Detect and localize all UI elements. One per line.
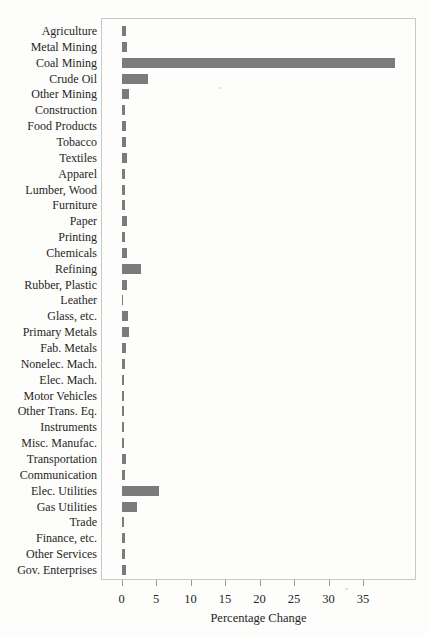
bar xyxy=(122,533,125,543)
x-tick-label: 35 xyxy=(348,592,378,607)
category-label: Other Mining xyxy=(0,88,97,100)
category-label: Instruments xyxy=(0,421,97,433)
bar xyxy=(122,359,125,369)
bar xyxy=(122,454,126,464)
category-label: Glass, etc. xyxy=(0,310,97,322)
bar xyxy=(122,295,123,305)
bar xyxy=(122,248,128,258)
bar xyxy=(122,264,141,274)
category-label: Other Services xyxy=(0,548,97,560)
category-label: Food Products xyxy=(0,120,97,132)
bar xyxy=(122,89,130,99)
x-tick-label: 30 xyxy=(314,592,344,607)
x-tick xyxy=(363,580,364,586)
bar xyxy=(122,42,128,52)
bar xyxy=(122,391,124,401)
x-tick-label: 20 xyxy=(245,592,275,607)
bar xyxy=(122,375,124,385)
bar xyxy=(122,311,129,321)
x-axis-title: Percentage Change xyxy=(101,611,416,626)
x-tick xyxy=(191,580,192,586)
bar xyxy=(122,185,126,195)
bar xyxy=(122,137,126,147)
category-label: Motor Vehicles xyxy=(0,390,97,402)
category-label: Rubber, Plastic xyxy=(0,279,97,291)
category-label: Metal Mining xyxy=(0,41,97,53)
bar xyxy=(122,502,137,512)
category-label: Communication xyxy=(0,469,97,481)
category-label: Other Trans. Eq. xyxy=(0,405,97,417)
category-label: Construction xyxy=(0,104,97,116)
category-label: Lumber, Wood xyxy=(0,184,97,196)
category-label: Transportation xyxy=(0,453,97,465)
x-tick-label: 0 xyxy=(107,592,137,607)
category-label: Paper xyxy=(0,215,97,227)
category-label: Trade xyxy=(0,516,97,528)
x-tick xyxy=(156,580,157,586)
bar xyxy=(122,74,148,84)
x-tick-label: 10 xyxy=(176,592,206,607)
category-label: Gov. Enterprises xyxy=(0,564,97,576)
category-label: Chemicals xyxy=(0,247,97,259)
category-label: Refining xyxy=(0,263,97,275)
bar xyxy=(122,549,125,559)
category-label: Printing xyxy=(0,231,97,243)
plot-area xyxy=(101,18,416,580)
category-label: Apparel xyxy=(0,168,97,180)
bar xyxy=(122,26,127,36)
x-tick xyxy=(122,580,123,586)
category-label: Gas Utilities xyxy=(0,501,97,513)
bar xyxy=(122,232,126,242)
bar-chart-figure: AgricultureMetal MiningCoal MiningCrude … xyxy=(0,0,429,637)
bar xyxy=(122,438,124,448)
bar xyxy=(122,517,125,527)
bar xyxy=(122,343,127,353)
bar xyxy=(122,470,125,480)
x-tick xyxy=(294,580,295,586)
scan-artifact xyxy=(219,87,222,89)
bar xyxy=(122,105,125,115)
x-tick xyxy=(260,580,261,586)
category-label: Agriculture xyxy=(0,25,97,37)
bar xyxy=(122,565,127,575)
x-tick xyxy=(329,580,330,586)
category-label: Leather xyxy=(0,294,97,306)
category-label: Finance, etc. xyxy=(0,532,97,544)
category-label: Crude Oil xyxy=(0,73,97,85)
bar xyxy=(122,200,125,210)
bar xyxy=(122,153,128,163)
category-label: Primary Metals xyxy=(0,326,97,338)
x-tick-label: 25 xyxy=(279,592,309,607)
category-label: Tobacco xyxy=(0,136,97,148)
x-tick-label: 5 xyxy=(141,592,171,607)
category-label: Nonelec. Mach. xyxy=(0,358,97,370)
bar xyxy=(122,121,126,131)
category-label: Misc. Manufac. xyxy=(0,437,97,449)
bar xyxy=(122,169,125,179)
category-label: Fab. Metals xyxy=(0,342,97,354)
category-label: Elec. Mach. xyxy=(0,374,97,386)
category-label: Elec. Utilities xyxy=(0,485,97,497)
bar xyxy=(122,327,130,337)
category-label: Coal Mining xyxy=(0,57,97,69)
bar xyxy=(122,422,125,432)
bar xyxy=(122,486,160,496)
bar xyxy=(122,406,125,416)
x-tick xyxy=(225,580,226,586)
bar xyxy=(122,280,128,290)
category-label: Furniture xyxy=(0,199,97,211)
bar xyxy=(122,216,128,226)
category-label: Textiles xyxy=(0,152,97,164)
bar xyxy=(122,58,396,68)
x-tick-label: 15 xyxy=(210,592,240,607)
scan-artifact xyxy=(345,588,348,590)
